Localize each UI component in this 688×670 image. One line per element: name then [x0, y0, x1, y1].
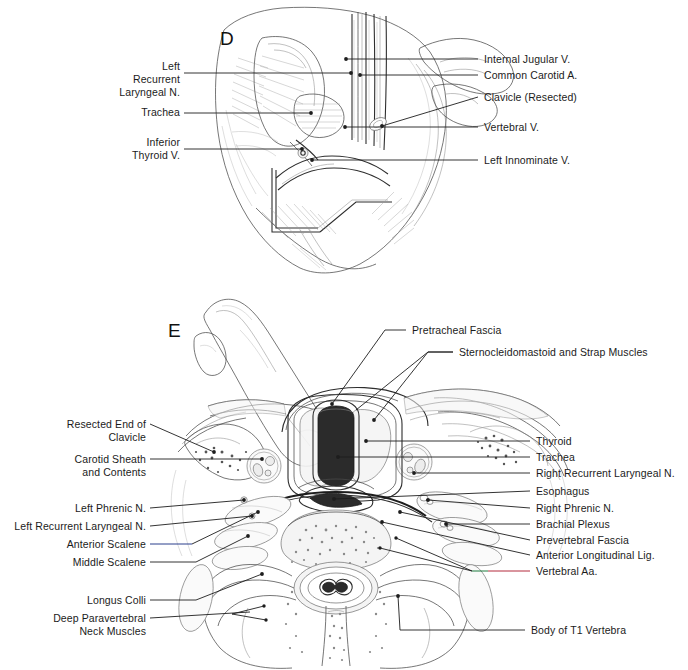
label-middle-scalene: Middle Scalene [20, 556, 146, 569]
panel-d-leaders [184, 57, 478, 162]
label-resected-end-of-clavicle: Resected End of Clavicle [20, 418, 146, 444]
label-anterior-scalene: Anterior Scalene [20, 538, 146, 551]
label-internal-jugular-v: Internal Jugular V. [484, 53, 570, 66]
label-anterior-longitudinal-lig: Anterior Longitudinal Lig. [536, 549, 655, 562]
label-body-of-t1-vertebra: Body of T1 Vertebra [531, 624, 626, 637]
label-right-recurrent-laryngeal-n: Right Recurrent Laryngeal N. [536, 467, 675, 480]
label-left-innominate-v: Left Innominate V. [484, 154, 570, 167]
label-trachea-e: Trachea [536, 451, 575, 464]
label-pretracheal-fascia: Pretracheal Fascia [412, 324, 501, 337]
label-brachial-plexus: Brachial Plexus [536, 518, 610, 531]
label-left-recurrent-laryngeal-n-d: Left Recurrent Laryngeal N. [60, 60, 180, 99]
label-vertebral-aa: Vertebral Aa. [536, 565, 597, 578]
label-left-recurrent-laryngeal-n-e: Left Recurrent Laryngeal N. [0, 520, 146, 533]
figure-root: D E Left Recurrent Laryngeal N. Trachea … [0, 0, 688, 670]
label-carotid-sheath-and-contents: Carotid Sheath and Contents [20, 453, 146, 479]
label-prevertebral-fascia: Prevertebral Fascia [536, 534, 629, 547]
label-left-phrenic-n: Left Phrenic N. [20, 502, 146, 515]
label-inferior-thyroid-v-d: Inferior Thyroid V. [60, 136, 180, 162]
label-trachea-d: Trachea [60, 106, 180, 119]
label-sternocleidomastoid-and-strap-muscles: Sternocleidomastoid and Strap Muscles [459, 346, 648, 359]
label-right-phrenic-n: Right Phrenic N. [536, 502, 614, 515]
label-common-carotid-a: Common Carotid A. [484, 69, 577, 82]
panel-letter-e: E [168, 320, 181, 342]
label-deep-paravertebral-neck-muscles: Deep Paravertebral Neck Muscles [20, 612, 146, 638]
label-esophagus: Esophagus [536, 485, 589, 498]
panel-letter-d: D [220, 28, 234, 50]
label-clavicle-resected: Clavicle (Resected) [484, 91, 577, 104]
panel-d-drawing [216, 7, 514, 273]
label-vertebral-v: Vertebral V. [484, 121, 539, 134]
label-longus-colli: Longus Colli [20, 594, 146, 607]
label-thyroid: Thyroid [536, 435, 572, 448]
